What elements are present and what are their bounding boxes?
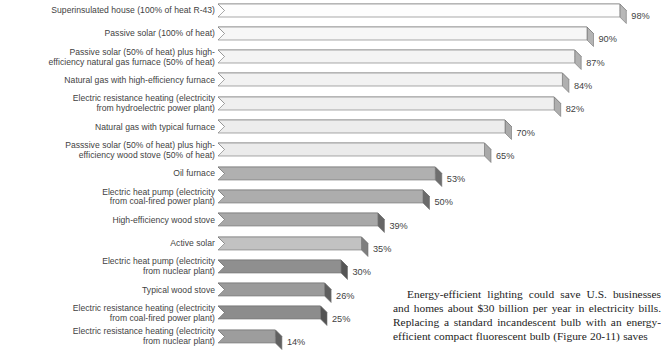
bar-front-face [218,190,423,203]
bar-value-label: 50% [435,197,453,207]
bar-value-label: 26% [336,291,354,301]
bar-front-face [218,50,575,63]
bar-3d [210,213,410,235]
bar-3d [210,283,357,305]
bar-front-face [218,120,505,133]
bar-category-label: Natural gas with high-efficiency furnace [10,76,215,86]
bar-3d [210,143,517,165]
bar-3d [210,73,594,95]
bar-front-face [218,306,321,319]
bar-right-cap [341,260,348,280]
bar-3d [210,260,373,282]
bar-3d [210,97,586,119]
bar-right-cap [505,120,512,140]
bar-value-label: 35% [373,244,391,254]
bar-right-cap [575,50,582,70]
bar-front-face [218,283,325,296]
article-body-paragraph: Energy-efficient lighting could save U.S… [393,288,661,359]
bar-category-label: Natural gas with typical furnace [10,123,215,133]
bar-right-cap [321,306,328,326]
bar-value-label: 65% [496,151,514,161]
bar-value-label: 25% [332,314,350,324]
bar-value-label: 53% [447,174,465,184]
bar-front-face [218,213,378,226]
bar-category-label: Electric resistance heating (electricity… [10,327,215,347]
chart-row: Electric heat pump (electricity from nuc… [0,260,655,283]
bar-right-cap [362,237,369,257]
bar-3d [210,120,537,142]
bar-category-label: Active solar [10,239,215,249]
bar-category-label: Electric resistance heating (electricity… [10,94,215,114]
bar-right-cap [423,190,430,210]
bar-category-label: Typical wood stove [10,286,215,296]
bar-3d [210,50,607,72]
bar-value-label: 39% [389,221,407,231]
bar-right-cap [378,213,385,233]
bar-3d [210,237,394,259]
chart-row: High-efficiency wood stove39% [0,213,655,236]
bar-right-cap [620,4,627,24]
bar-front-face [218,73,562,86]
chart-row: Superinsulated house (100% of heat R-43)… [0,4,655,27]
bar-3d [210,167,467,189]
bar-category-label: High-efficiency wood stove [10,216,215,226]
bar-right-cap [554,97,561,117]
bar-category-label: Passsive solar (50% of heat) plus high- … [10,141,215,161]
bar-right-cap [275,330,282,350]
bar-right-cap [562,73,569,93]
bar-front-face [218,4,620,17]
bar-value-label: 87% [586,58,604,68]
bar-front-face [218,330,275,343]
bar-right-cap [485,143,492,163]
bar-value-label: 90% [599,34,617,44]
bar-value-label: 70% [517,128,535,138]
bar-category-label: Electric resistance heating (electricity… [10,304,215,324]
bar-value-label: 30% [353,267,371,277]
chart-row: Passive solar (50% of heat) plus high- e… [0,50,655,73]
bar-value-label: 98% [631,11,649,21]
bar-right-cap [435,167,442,187]
bar-category-label: Passive solar (100% of heat) [10,29,215,39]
bar-category-label: Electric heat pump (electricity from coa… [10,188,215,208]
chart-row: Oil furnace53% [0,167,655,190]
bar-right-cap [587,27,594,47]
bar-front-face [218,260,341,273]
bar-front-face [218,167,435,180]
bar-3d [210,4,652,26]
bar-front-face [218,97,554,110]
bar-category-label: Superinsulated house (100% of heat R-43) [10,6,215,16]
bar-category-label: Electric heat pump (electricity from nuc… [10,257,215,277]
bar-category-label: Passive solar (50% of heat) plus high- e… [10,48,215,68]
chart-row: Active solar35% [0,237,655,260]
chart-row: Electric heat pump (electricity from coa… [0,190,655,213]
bar-front-face [218,237,362,250]
bar-value-label: 14% [287,337,305,347]
bar-value-label: 82% [566,104,584,114]
chart-row: Passsive solar (50% of heat) plus high- … [0,143,655,166]
bar-value-label: 84% [574,81,592,91]
bar-front-face [218,27,587,40]
chart-row: Electric resistance heating (electricity… [0,97,655,120]
bar-front-face [218,143,485,156]
bar-3d [210,190,455,212]
bar-3d [210,27,619,49]
bar-right-cap [325,283,332,303]
bar-category-label: Oil furnace [10,169,215,179]
